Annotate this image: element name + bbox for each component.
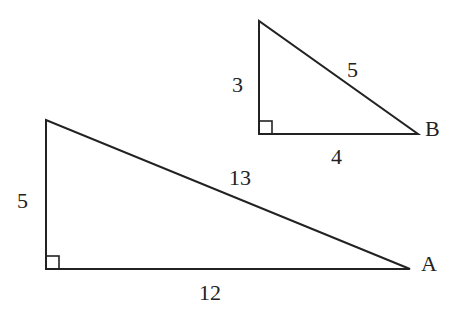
vertex-label-a: A bbox=[421, 251, 437, 276]
triangle-a-vertical-label: 5 bbox=[17, 188, 28, 213]
triangle-b-vertical-label: 3 bbox=[232, 72, 243, 97]
right-angle-marker-a bbox=[46, 256, 59, 269]
triangle-a-outline bbox=[46, 120, 410, 269]
vertex-label-b: B bbox=[425, 116, 440, 141]
triangle-a-horizontal-label: 12 bbox=[199, 280, 221, 305]
triangle-b-hypotenuse-label: 5 bbox=[347, 57, 358, 82]
right-triangles-diagram: 3 5 4 B 5 13 12 A bbox=[0, 0, 460, 311]
triangle-b-outline bbox=[259, 21, 418, 134]
triangle-b-horizontal-label: 4 bbox=[331, 144, 342, 169]
triangle-b: 3 5 4 B bbox=[232, 21, 440, 169]
triangle-a: 5 13 12 A bbox=[17, 120, 437, 305]
triangle-a-hypotenuse-label: 13 bbox=[229, 165, 251, 190]
right-angle-marker-b bbox=[259, 121, 272, 134]
